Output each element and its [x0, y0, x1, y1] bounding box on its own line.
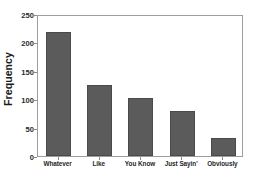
bar — [87, 85, 112, 156]
bar-slot — [162, 16, 203, 156]
y-tick-label: 200 — [12, 39, 34, 48]
x-tick-label: You Know — [125, 160, 155, 167]
y-tick-label: 150 — [12, 67, 34, 76]
y-tick-label: 100 — [12, 96, 34, 105]
bar — [211, 138, 236, 156]
y-tick-label: 250 — [12, 11, 34, 20]
bar-slot — [203, 16, 244, 156]
bar — [170, 111, 195, 156]
bar-slot — [38, 16, 79, 156]
x-axis: WhateverLikeYou KnowJust Sayin'Obviously — [37, 157, 243, 176]
bar — [46, 32, 71, 156]
x-tick-label: Just Sayin' — [165, 160, 198, 167]
bar — [128, 98, 153, 156]
bar-slot — [79, 16, 120, 156]
x-tick-label: Like — [93, 160, 106, 167]
x-tick-label: Whatever — [43, 160, 71, 167]
y-tick-mark — [33, 157, 37, 158]
bar-chart-figure: Frequency 050100150200250 WhateverLikeYo… — [0, 0, 257, 176]
y-tick-mark — [33, 129, 37, 130]
y-tick-mark — [33, 100, 37, 101]
x-tick-label: Obviously — [207, 160, 237, 167]
bars-layer — [38, 16, 242, 156]
bar-slot — [120, 16, 161, 156]
plot-area — [37, 15, 243, 157]
y-tick-label: 0 — [12, 153, 34, 162]
y-tick-label: 50 — [12, 124, 34, 133]
y-tick-mark — [33, 72, 37, 73]
y-tick-mark — [33, 43, 37, 44]
y-tick-mark — [33, 15, 37, 16]
y-axis-tick-labels: 050100150200250 — [14, 15, 34, 157]
